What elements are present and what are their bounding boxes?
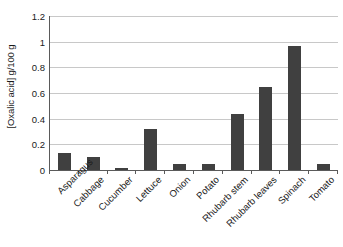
bar-slot [223, 16, 252, 170]
y-axis-tick-label: 1.2 [32, 11, 45, 22]
bar-slot [194, 16, 223, 170]
y-axis-tick-label: 0 [40, 165, 45, 176]
bar-rhubarb-stem [231, 114, 244, 170]
bar-slot [280, 16, 309, 170]
plot-area [49, 16, 338, 171]
bar-slot [136, 16, 165, 170]
bar-slot [252, 16, 281, 170]
bar-slot [50, 16, 79, 170]
bar-slot [79, 16, 108, 170]
y-axis-title: [Oxalic acid] g/100 g [0, 0, 22, 172]
bar-rhubarb-leaves [259, 87, 272, 170]
bar-lettuce [144, 129, 157, 170]
bar-asparagus [58, 153, 71, 170]
x-axis-label-asparagus: Asparagus [55, 174, 77, 196]
x-axis-category-labels: AsparagusCabbageCucumberLettuceOnionPota… [49, 174, 337, 247]
bar-slot [165, 16, 194, 170]
bar-slot [309, 16, 338, 170]
x-axis-tick [337, 170, 338, 174]
y-axis-title-text: [Oxalic acid] g/100 g [6, 44, 17, 128]
bars-container [50, 16, 338, 170]
y-axis-tick-label: 0.4 [32, 113, 45, 124]
y-axis-tick-label: 0.2 [32, 139, 45, 150]
oxalic-acid-bar-chart: [Oxalic acid] g/100 g 00.20.40.60.811.2 … [0, 0, 343, 247]
y-axis-tick-label: 1 [40, 36, 45, 47]
x-axis-label-rhubarb-leaves: Rhubarb leaves [114, 174, 279, 247]
y-axis-tick-labels: 00.20.40.60.811.2 [20, 0, 48, 172]
bar-spinach [288, 46, 301, 170]
bar-slot [108, 16, 137, 170]
y-axis-tick-label: 0.6 [32, 88, 45, 99]
y-axis-tick-label: 0.8 [32, 62, 45, 73]
